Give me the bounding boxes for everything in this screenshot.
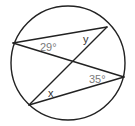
circle xyxy=(11,6,125,120)
angle-label-x: x xyxy=(48,87,54,99)
angle-label-29: 29° xyxy=(40,41,57,53)
chord-a-c xyxy=(13,43,124,77)
angle-label-y: y xyxy=(83,33,89,45)
angle-label-35: 35° xyxy=(89,73,106,85)
circle-diagram: 29° y 35° x xyxy=(0,0,135,126)
